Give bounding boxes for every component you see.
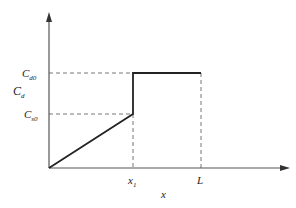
x-tick-x1: x1 [127,174,136,189]
x-axis-arrow-icon [280,165,290,171]
y-tick-cd0: Cd0 [22,67,37,82]
y-axis-arrow-icon [46,12,52,22]
y-tick-cs0: Cs0 [24,108,38,123]
x-tick-l: L [196,174,203,186]
y-axis-label: Cd [13,84,25,100]
concentration-curve [49,73,201,168]
x-axis-label: x [160,188,166,200]
step-plot: Cd0 Cs0 Cd x1 L x [0,0,296,208]
